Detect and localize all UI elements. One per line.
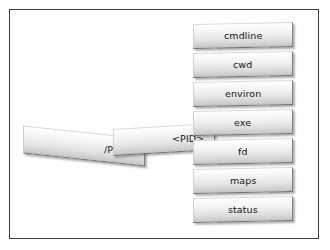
node-environ[interactable]: environ [193, 80, 293, 107]
node-maps[interactable]: maps [193, 167, 293, 194]
node-exe-label: exe [234, 118, 251, 128]
diagram-canvas: /PROC <PID> cmdline cwd environ exe fd m… [10, 10, 318, 238]
node-fd[interactable]: fd [193, 138, 293, 165]
node-cwd[interactable]: cwd [193, 51, 293, 78]
node-cmdline[interactable]: cmdline [193, 22, 293, 49]
node-fd-label: fd [238, 147, 248, 157]
node-status-label: status [228, 205, 258, 215]
diagram-frame: /PROC <PID> cmdline cwd environ exe fd m… [9, 9, 319, 239]
node-exe[interactable]: exe [193, 109, 293, 136]
node-cwd-label: cwd [233, 60, 252, 70]
node-cmdline-label: cmdline [224, 31, 262, 41]
node-maps-label: maps [230, 176, 256, 186]
node-environ-label: environ [225, 89, 261, 99]
node-status[interactable]: status [193, 196, 293, 223]
